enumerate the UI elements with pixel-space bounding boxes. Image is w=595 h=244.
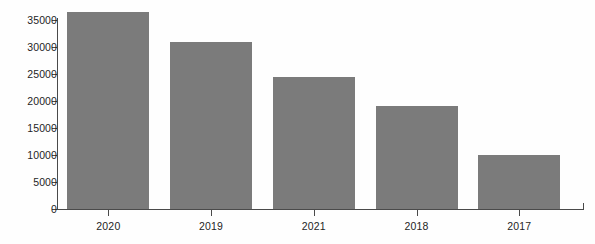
y-axis-tick-label: 35000 [11, 15, 57, 26]
x-axis-tick-label: 2018 [377, 220, 457, 232]
x-axis-tick-mark [211, 210, 212, 216]
bar [67, 12, 149, 209]
y-axis-tick-label: 15000 [11, 123, 57, 134]
x-axis-tick-label: 2021 [274, 220, 354, 232]
x-axis-tick-mark [314, 210, 315, 216]
x-axis-tick-mark [108, 210, 109, 216]
x-axis-tick-label: 2019 [171, 220, 251, 232]
y-axis-tick-label: 0 [11, 204, 57, 215]
y-axis-tick-label: 25000 [11, 69, 57, 80]
x-axis-end-tick [583, 203, 584, 210]
y-axis-tick-label: 10000 [11, 150, 57, 161]
x-axis-tick-label: 2017 [479, 220, 559, 232]
bar [478, 155, 560, 209]
y-axis-tick-label: 30000 [11, 42, 57, 53]
x-axis-tick-label: 2020 [68, 220, 148, 232]
bar [170, 42, 252, 209]
bar-chart: 05000100001500020000250003000035000 2020… [0, 0, 595, 244]
x-axis-tick-mark [519, 210, 520, 216]
x-axis-line [57, 209, 584, 210]
bar [273, 77, 355, 209]
bar [376, 106, 458, 209]
x-axis-tick-mark [417, 210, 418, 216]
y-axis-line [57, 18, 58, 210]
y-axis-tick-label: 20000 [11, 96, 57, 107]
y-axis-tick-label: 5000 [11, 177, 57, 188]
